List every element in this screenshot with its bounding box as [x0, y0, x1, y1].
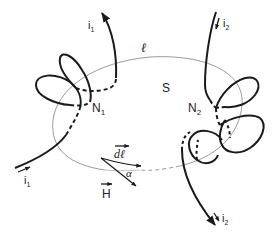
n2-label: N2 [188, 101, 202, 117]
i1-bottom-arrow [18, 167, 30, 172]
coil-2-wire [182, 12, 264, 225]
diagram-canvas: ℓ S N1 N2 i1 i1 i2 i2 dℓ H α [0, 0, 272, 237]
i1-top-label: i1 [88, 19, 94, 33]
ampere-law-diagram: ℓ S N1 N2 i1 i1 i2 i2 dℓ H α [0, 0, 272, 237]
i1-bottom-label: i1 [24, 174, 30, 188]
i2-top-arrow [216, 18, 219, 29]
labels: ℓ S N1 N2 i1 i1 i2 i2 dℓ H α [24, 17, 229, 226]
i2-bottom-label: i2 [222, 212, 228, 226]
vector-group [18, 18, 219, 221]
H-label: H [102, 187, 111, 201]
closed-loop-l [53, 57, 242, 171]
surface-label: S [162, 81, 170, 95]
coil-1-wire [15, 13, 116, 168]
loop-label: ℓ [141, 40, 147, 55]
i2-bottom-arrow [214, 213, 219, 221]
n1-label: N1 [92, 101, 106, 117]
alpha-label: α [126, 167, 132, 179]
dl-label: dℓ [114, 147, 125, 161]
i2-top-label: i2 [223, 17, 229, 31]
